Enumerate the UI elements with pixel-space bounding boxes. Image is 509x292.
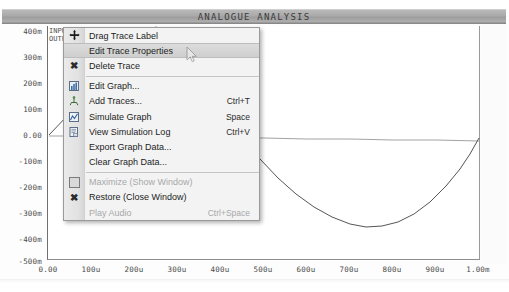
menu-item-restore-close-window[interactable]: ✖ Restore (Close Window) <box>64 190 259 205</box>
menu-item-simulate-graph[interactable]: Simulate Graph Space <box>64 109 259 124</box>
simulate-icon <box>64 109 84 124</box>
y-tick-label: -200m <box>0 183 42 192</box>
menu-item-add-traces[interactable]: Add Traces... Ctrl+T <box>64 94 259 109</box>
menu-separator <box>86 172 259 173</box>
menu-item-maximize-show-window: Maximize (Show Window) <box>64 175 259 190</box>
menu-item-label: Drag Trace Label <box>84 31 250 41</box>
x-tick-label: 0.00 <box>26 265 70 274</box>
menu-item-drag-trace-label[interactable]: Drag Trace Label <box>64 28 259 43</box>
no-icon <box>64 139 84 154</box>
menu-item-shortcut: Ctrl+Space <box>208 208 259 218</box>
menu-item-label: Add Traces... <box>84 96 227 106</box>
analogue-analysis-window: ANALOGUE ANALYSIS 400m 300m 200m 100m 0.… <box>0 0 509 292</box>
menu-item-shortcut: Ctrl+V <box>226 127 259 137</box>
x-tick-label: 900u <box>413 265 457 274</box>
x-tick-label: 800u <box>370 265 414 274</box>
menu-item-shortcut: Ctrl+T <box>227 96 259 106</box>
x-tick-label: 600u <box>284 265 328 274</box>
menu-item-delete-trace[interactable]: ✖ Delete Trace <box>64 58 259 73</box>
no-icon <box>64 43 84 58</box>
page-fold-shadow <box>0 279 509 282</box>
x-tick-label: 200u <box>112 265 156 274</box>
menu-item-label: Maximize (Show Window) <box>84 177 250 187</box>
plot-right-gutter <box>481 24 507 264</box>
x-tick-label: 300u <box>155 265 199 274</box>
menu-item-label: Clear Graph Data... <box>84 157 250 167</box>
title-bar-shadow <box>2 22 506 24</box>
y-tick-label: 300m <box>0 53 42 62</box>
y-tick-label: -300m <box>0 209 42 218</box>
x-tick-label: 700u <box>327 265 371 274</box>
x-tick-label: 400u <box>198 265 242 274</box>
no-icon <box>64 205 84 220</box>
graph-context-menu[interactable]: Drag Trace Label Edit Trace Properties ✖… <box>63 27 260 221</box>
menu-item-label: Restore (Close Window) <box>84 192 250 202</box>
edit-graph-icon <box>64 79 84 94</box>
menu-item-label: Play Audio <box>84 208 208 218</box>
y-tick-label: -100m <box>0 157 42 166</box>
x-mark-icon: ✖ <box>64 58 84 73</box>
window-top-margin <box>0 0 509 9</box>
menu-item-label: Delete Trace <box>84 61 250 71</box>
menu-item-label: Simulate Graph <box>84 112 226 122</box>
menu-item-label: View Simulation Log <box>84 127 226 137</box>
no-icon <box>64 155 84 170</box>
y-tick-label: 200m <box>0 79 42 88</box>
x-tick-label: 1.00m <box>456 265 500 274</box>
window-bottom-margin <box>0 283 509 292</box>
x-mark-icon: ✖ <box>64 190 84 205</box>
x-tick-label: 500u <box>241 265 285 274</box>
menu-item-edit-trace-properties[interactable]: Edit Trace Properties <box>64 43 259 58</box>
menu-item-label: Edit Trace Properties <box>84 46 250 56</box>
page-title: ANALOGUE ANALYSIS <box>198 12 311 22</box>
menu-item-export-graph-data[interactable]: Export Graph Data... <box>64 139 259 154</box>
menu-item-shortcut: Space <box>226 112 259 122</box>
menu-item-clear-graph-data[interactable]: Clear Graph Data... <box>64 155 259 170</box>
y-tick-label: 400m <box>0 27 42 36</box>
menu-item-view-simulation-log[interactable]: View Simulation Log Ctrl+V <box>64 124 259 139</box>
y-tick-label: 0.00 <box>0 131 42 140</box>
maximize-icon <box>64 175 84 190</box>
menu-item-label: Edit Graph... <box>84 81 250 91</box>
menu-item-edit-graph[interactable]: Edit Graph... <box>64 79 259 94</box>
log-icon <box>64 124 84 139</box>
x-tick-label: 100u <box>69 265 113 274</box>
menu-item-label: Export Graph Data... <box>84 142 250 152</box>
y-tick-label: -400m <box>0 235 42 244</box>
menu-separator <box>86 76 259 77</box>
add-trace-icon <box>64 94 84 109</box>
y-tick-label: 100m <box>0 105 42 114</box>
move-cross-icon <box>64 28 84 43</box>
menu-item-play-audio: Play Audio Ctrl+Space <box>64 205 259 220</box>
